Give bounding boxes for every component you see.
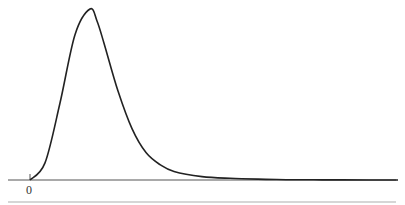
density-curve: [30, 9, 398, 180]
density-chart: [0, 0, 405, 205]
x-axis-origin-label: 0: [26, 183, 32, 198]
